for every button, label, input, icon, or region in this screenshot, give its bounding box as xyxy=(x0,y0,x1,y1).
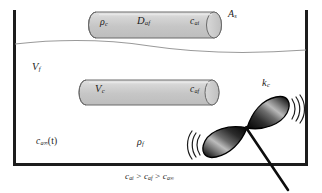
impeller-blades xyxy=(203,97,289,158)
label-c-af: caf xyxy=(190,85,199,95)
label-v-c: Vc xyxy=(95,84,105,95)
concentration-inequality: cai > caf > ca∞ xyxy=(125,172,174,182)
motion-arcs-left xyxy=(188,131,201,159)
fluid-surface-line xyxy=(15,41,306,53)
label-a-s: As xyxy=(228,9,237,20)
impeller-blade-lower xyxy=(203,127,247,158)
motion-arcs-right xyxy=(292,95,305,123)
diagram-svg xyxy=(0,0,322,193)
figure-canvas: ρc Daf cai As Vf Vc caf kc ca∞(t) ρf cai… xyxy=(0,0,322,193)
label-c-ainf-t: ca∞(t) xyxy=(36,137,57,147)
impeller-shaft xyxy=(247,129,288,190)
impeller-blade-upper xyxy=(247,97,289,129)
label-c-ai: cai xyxy=(190,17,199,27)
cylinder-top xyxy=(89,12,222,38)
label-v-f: Vf xyxy=(32,62,41,73)
label-k-c: kc xyxy=(262,78,270,89)
cylinder-top-endcap xyxy=(207,12,222,38)
label-d-af: Daf xyxy=(137,16,150,27)
label-rho-f: ρf xyxy=(137,137,144,148)
cylinder-bottom-endcap xyxy=(205,80,219,105)
label-rho-c: ρc xyxy=(100,17,108,28)
impeller-hub xyxy=(245,126,250,131)
